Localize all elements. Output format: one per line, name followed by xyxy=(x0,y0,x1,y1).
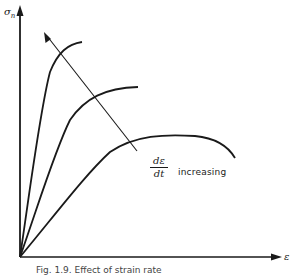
y-axis-arrow-icon xyxy=(17,5,24,16)
rate-arrow xyxy=(47,36,137,151)
fraction-denominator: dt xyxy=(150,168,168,180)
x-axis-arrow-icon xyxy=(271,254,282,261)
curve-medium-rate xyxy=(20,87,138,257)
strain-rate-fraction: dε dt xyxy=(150,155,168,180)
fraction-numerator: dε xyxy=(150,155,168,168)
rate-annotation: increasing xyxy=(178,167,226,177)
rate-arrowhead-icon xyxy=(44,32,51,43)
curve-low-rate xyxy=(20,135,235,257)
y-axis-symbol: σ xyxy=(4,6,11,17)
y-axis-label: σn xyxy=(4,6,15,20)
y-axis-subscript: n xyxy=(11,12,16,20)
figure-caption: Fig. 1.9. Effect of strain rate xyxy=(36,265,162,275)
curve-high-rate xyxy=(20,42,82,257)
x-axis-label: ε xyxy=(284,251,289,262)
